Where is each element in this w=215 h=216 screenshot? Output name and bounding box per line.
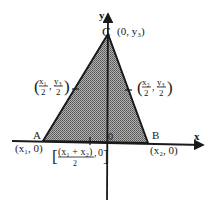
- point-b-label: B: [152, 129, 159, 141]
- midpoint-ab-label: [ (x₁ + x₂) 2 , 0 ]: [52, 146, 109, 168]
- midpoint-bc-x-num: x₂: [142, 77, 150, 87]
- origin-label: 0: [108, 131, 113, 142]
- y-axis: [107, 14, 108, 200]
- midpoint-ac-y-num: y₃: [54, 76, 62, 86]
- point-c-coord: (0, y₃): [117, 25, 145, 38]
- midpoint-bc-x-den: 2: [144, 88, 149, 98]
- svg-text:,: ,: [49, 80, 52, 91]
- midpoint-bc-y-den: 2: [159, 88, 164, 98]
- svg-text:): ): [64, 77, 70, 96]
- x-axis-label: x: [194, 130, 200, 142]
- point-b-coord: (x₂, 0): [150, 144, 178, 157]
- point-a-coord: (x₁, 0): [15, 142, 43, 155]
- svg-text:,: ,: [152, 81, 155, 92]
- midpoint-ac-y-den: 2: [56, 87, 61, 97]
- point-a-label: A: [33, 129, 41, 141]
- midpoint-ab-x-num: (x₁ + x₂): [58, 146, 92, 158]
- midpoint-ac-x-den: 2: [41, 87, 46, 97]
- midpoint-ac-label: ( x₁ 2 , y₃ 2 ): [34, 76, 70, 97]
- midpoint-bc-label: ( x₂ 2 , y₃ 2 ): [137, 77, 173, 98]
- midpoint-bc-y-num: y₃: [157, 77, 165, 87]
- svg-text:]: ]: [103, 147, 109, 166]
- triangle-diagram: C y x 0 (0, y₃) A (x₁, 0) B (x₂, 0) ( x₁…: [0, 0, 215, 216]
- point-c-label: C: [102, 24, 111, 39]
- svg-text:): ): [167, 78, 173, 97]
- svg-text:,: ,: [94, 147, 97, 158]
- midpoint-ab-x-den: 2: [73, 159, 77, 168]
- midpoint-ac-x-num: x₁: [39, 76, 47, 86]
- y-axis-label: y: [99, 9, 105, 21]
